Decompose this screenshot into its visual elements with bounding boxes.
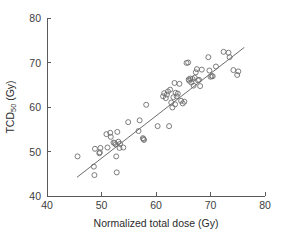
x-tick-label-40: 40: [41, 199, 53, 211]
y-tick-label-40: 40: [29, 190, 41, 202]
data-point: [144, 102, 149, 107]
data-point: [221, 49, 226, 54]
y-axis-title-subscript: 50: [9, 104, 18, 112]
regression-line: [77, 47, 244, 177]
plot-canvas: 40506070804050607080 Normalized total do…: [0, 0, 282, 241]
x-axis-title: Normalized total dose (Gy): [94, 217, 219, 229]
x-tick-label-60: 60: [150, 199, 162, 211]
data-point: [194, 67, 199, 72]
x-tick-label-80: 80: [259, 199, 271, 211]
data-point: [198, 84, 203, 89]
y-tick-label-60: 60: [29, 101, 41, 113]
data-point: [114, 154, 119, 159]
data-point: [193, 70, 198, 75]
y-tick-label-70: 70: [29, 57, 41, 69]
data-point: [213, 64, 218, 69]
y-tick-label-80: 80: [29, 12, 41, 24]
data-point: [92, 173, 97, 178]
scatter-chart-figure: 40506070804050607080 Normalized total do…: [0, 0, 282, 241]
y-axis-title: TCD50 (Gy): [4, 80, 18, 133]
data-point: [137, 118, 142, 123]
x-tick-label-50: 50: [96, 199, 108, 211]
data-point: [207, 68, 212, 73]
data-point: [231, 68, 236, 73]
data-point: [92, 146, 97, 151]
y-tick-label-50: 50: [29, 146, 41, 158]
y-axis-title-base: TCD: [4, 112, 16, 134]
data-point: [115, 129, 120, 134]
data-point: [177, 81, 182, 86]
data-point: [91, 164, 96, 169]
axes: [47, 18, 265, 196]
data-point: [114, 170, 119, 175]
data-point: [105, 145, 110, 150]
axis-ticks: [47, 18, 265, 196]
y-axis-title-unit: (Gy): [4, 80, 16, 103]
fit-line: [77, 47, 244, 177]
data-point: [75, 154, 80, 159]
data-point: [155, 124, 160, 129]
data-points: [75, 49, 241, 177]
axis-tick-labels: 40506070804050607080: [29, 12, 271, 211]
data-point: [170, 105, 175, 110]
data-point: [199, 67, 204, 72]
data-point: [126, 120, 131, 125]
data-point: [167, 124, 172, 129]
x-tick-label-70: 70: [205, 199, 217, 211]
data-point: [172, 80, 177, 85]
data-point: [206, 55, 211, 60]
